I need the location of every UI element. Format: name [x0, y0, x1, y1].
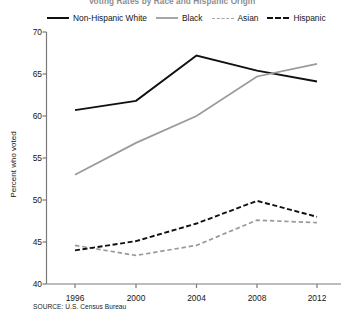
series-line-black — [75, 64, 317, 175]
series-line-asian — [75, 220, 317, 255]
y-tick-label: 65 — [20, 70, 42, 78]
chart-figure: Voting Rates by Race and Hispanic Origin… — [0, 0, 344, 322]
x-tick-label: 2000 — [127, 294, 146, 302]
y-tick-label: 50 — [20, 196, 42, 204]
plot-area — [0, 0, 344, 322]
x-axis-tick-labels: 19962000200420082012 — [0, 288, 344, 302]
y-axis-title: Percent who voted — [9, 105, 18, 225]
x-tick-label: 1996 — [66, 294, 85, 302]
x-tick-label: 2004 — [187, 294, 206, 302]
source-note: SOURCE: U.S. Census Bureau — [33, 303, 126, 310]
plot-svg — [0, 0, 344, 322]
x-tick-label: 2008 — [248, 294, 267, 302]
x-tick-label: 2012 — [308, 294, 327, 302]
y-tick-label: 70 — [20, 28, 42, 36]
y-tick-label: 55 — [20, 154, 42, 162]
series-line-non-hispanic-white — [75, 56, 317, 111]
y-tick-label: 40 — [20, 280, 42, 288]
y-axis-tick-labels: 40455055606570 — [14, 0, 42, 322]
series-line-hispanic — [75, 201, 317, 251]
y-tick-label: 45 — [20, 238, 42, 246]
y-tick-label: 60 — [20, 112, 42, 120]
